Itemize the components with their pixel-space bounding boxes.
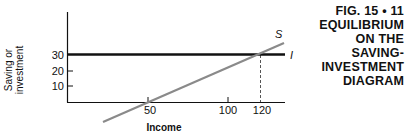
y-tick-label-20: 20 xyxy=(52,65,64,77)
caption-line-4: SAVING- xyxy=(304,46,404,60)
x-axis-title: Income xyxy=(146,122,181,133)
caption-line-2: EQUILIBRIUM xyxy=(304,18,404,32)
caption-line-6: DIAGRAM xyxy=(304,74,404,88)
x-tick-label-120: 120 xyxy=(253,104,271,116)
y-tick-label-30: 30 xyxy=(52,49,64,61)
investment-line-label: I xyxy=(290,49,293,61)
saving-line-label: S xyxy=(275,28,283,40)
caption-line-3: ON THE xyxy=(304,32,404,46)
x-tick-label-100: 100 xyxy=(219,104,237,116)
y-tick-label-10: 10 xyxy=(52,80,64,92)
caption-line-5: INVESTMENT xyxy=(304,60,404,74)
figure-caption: FIG. 15 • 11 EQUILIBRIUM ON THE SAVING- … xyxy=(304,4,404,88)
caption-line-1: FIG. 15 • 11 xyxy=(304,4,404,18)
x-tick-label-50: 50 xyxy=(144,104,156,116)
